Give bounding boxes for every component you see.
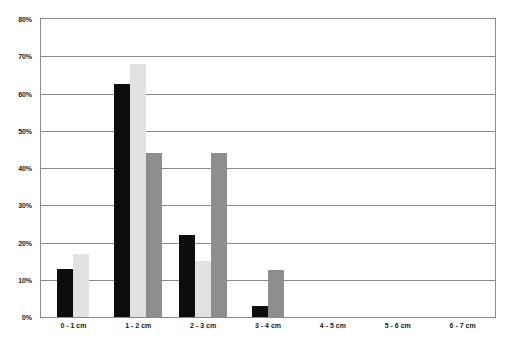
bar	[211, 153, 227, 317]
bar	[57, 269, 73, 317]
bar-group	[300, 19, 365, 317]
x-axis-tick-label: 2 - 3 cm	[171, 322, 236, 342]
bar	[130, 64, 146, 317]
y-axis-tick-label: 20%	[18, 239, 32, 246]
y-axis-tick-label: 0%	[22, 314, 32, 321]
y-axis-tick-label: 50%	[18, 127, 32, 134]
bar-group	[365, 19, 430, 317]
y-axis-tick-label: 10%	[18, 276, 32, 283]
bar	[146, 153, 162, 317]
bar-group	[430, 19, 495, 317]
x-axis: 0 - 1 cm1 - 2 cm2 - 3 cm3 - 4 cm4 - 5 cm…	[41, 322, 495, 342]
x-axis-tick-label: 4 - 5 cm	[300, 322, 365, 342]
y-axis-tick-label: 70%	[18, 53, 32, 60]
bar	[195, 261, 211, 317]
bar-group	[41, 19, 106, 317]
bar	[268, 270, 284, 317]
bar-group	[236, 19, 301, 317]
x-axis-tick-label: 0 - 1 cm	[41, 322, 106, 342]
y-axis: 80%70%60%50%40%30%20%10%0%	[0, 18, 36, 318]
bar-chart: 80%70%60%50%40%30%20%10%0% 0 - 1 cm1 - 2…	[0, 0, 512, 345]
y-axis-tick-label: 30%	[18, 202, 32, 209]
bar-groups	[41, 19, 495, 317]
bar	[73, 254, 89, 317]
bar	[179, 235, 195, 317]
x-axis-tick-label: 5 - 6 cm	[365, 322, 430, 342]
y-axis-tick-label: 80%	[18, 16, 32, 23]
bar	[114, 84, 130, 317]
bar	[252, 306, 268, 317]
y-axis-tick-label: 60%	[18, 90, 32, 97]
x-axis-tick-label: 1 - 2 cm	[106, 322, 171, 342]
x-axis-tick-label: 6 - 7 cm	[430, 322, 495, 342]
bar-group	[171, 19, 236, 317]
y-axis-tick-label: 40%	[18, 165, 32, 172]
bar-group	[106, 19, 171, 317]
x-axis-tick-label: 3 - 4 cm	[236, 322, 301, 342]
